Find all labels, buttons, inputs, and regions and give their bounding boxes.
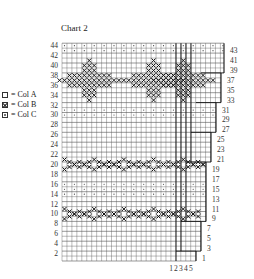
- row-label: 23: [217, 145, 225, 154]
- row-label: 11: [212, 205, 219, 214]
- row-label: 6: [54, 229, 58, 238]
- row-label: 33: [227, 96, 235, 105]
- column-label: 4: [184, 264, 188, 273]
- row-label: 4: [54, 239, 58, 248]
- row-label: 39: [230, 66, 238, 75]
- row-label: 37: [227, 76, 235, 85]
- row-label: 41: [230, 56, 238, 65]
- row-label: 34: [51, 91, 59, 100]
- row-label: 29: [222, 115, 230, 124]
- column-label: 1: [169, 264, 173, 273]
- row-label: 10: [51, 209, 59, 218]
- row-label: 36: [51, 81, 59, 90]
- column-label: 2: [174, 264, 178, 273]
- row-label: 5: [207, 234, 211, 243]
- row-label: 17: [212, 175, 220, 184]
- row-label: 32: [51, 101, 59, 110]
- row-label: 18: [51, 170, 59, 179]
- row-label: 31: [222, 106, 230, 115]
- row-label: 30: [51, 110, 59, 119]
- row-label: 35: [227, 86, 235, 95]
- row-label: 7: [207, 224, 211, 233]
- row-label: 3: [207, 244, 211, 253]
- row-label: 19: [212, 165, 220, 174]
- row-label: 2: [54, 249, 58, 258]
- knitting-chart-grid: 2468101214161820222426283032343638404244…: [0, 0, 254, 279]
- row-label: 22: [51, 150, 59, 159]
- row-label: 12: [51, 200, 59, 209]
- row-label: 1: [202, 254, 206, 263]
- row-label: 24: [51, 140, 59, 149]
- row-label: 26: [51, 130, 59, 139]
- row-label: 25: [217, 135, 225, 144]
- row-label: 9: [212, 214, 216, 223]
- row-label: 42: [51, 51, 59, 60]
- row-label: 21: [217, 155, 225, 164]
- row-label: 8: [54, 219, 58, 228]
- row-label: 14: [51, 190, 59, 199]
- column-label: 5: [189, 264, 193, 273]
- row-label: 16: [51, 180, 59, 189]
- row-label: 44: [51, 41, 59, 50]
- row-label: 15: [212, 185, 220, 194]
- row-label: 13: [212, 195, 220, 204]
- row-label: 27: [222, 125, 230, 134]
- row-label: 40: [51, 61, 59, 70]
- column-label: 3: [179, 264, 183, 273]
- row-label: 20: [51, 160, 59, 169]
- row-label: 38: [51, 71, 59, 80]
- row-label: 43: [230, 46, 238, 55]
- row-label: 28: [51, 120, 59, 129]
